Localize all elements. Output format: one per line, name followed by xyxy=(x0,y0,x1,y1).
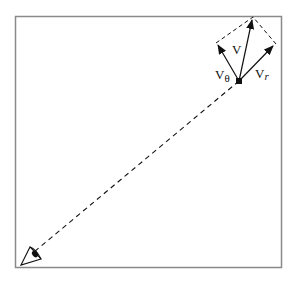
frame-border xyxy=(16,17,282,268)
parallelogram-edge-r xyxy=(253,17,276,44)
line-of-sight xyxy=(34,81,239,252)
label-v: V xyxy=(232,42,242,57)
label-v-theta: Vθ xyxy=(215,67,230,84)
label-v-theta-sub: θ xyxy=(224,72,229,84)
object-point xyxy=(236,78,242,84)
velocity-diagram: V Vθ Vr xyxy=(0,0,297,284)
observer-eye-icon xyxy=(21,247,41,265)
label-v-r-sub: r xyxy=(264,70,269,82)
label-v-r: Vr xyxy=(255,66,269,82)
